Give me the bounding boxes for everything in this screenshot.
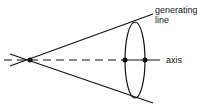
far-axis-dot — [143, 58, 148, 63]
apex-dot — [28, 58, 33, 63]
near-axis-dot — [123, 58, 128, 63]
cone-diagram: generating line axis — [0, 0, 197, 110]
generating-line-label-1: generating — [155, 5, 197, 15]
axis-label: axis — [166, 55, 183, 65]
generating-line-label-2: line — [155, 15, 169, 25]
